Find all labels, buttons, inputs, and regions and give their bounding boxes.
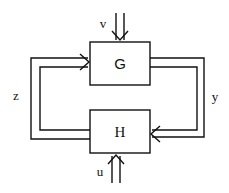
signal-y-label: y	[212, 89, 219, 104]
signal-u-label: u	[97, 164, 104, 179]
y-signal-path	[150, 58, 204, 142]
v-input-arrow	[112, 13, 128, 40]
signal-v-label: v	[100, 16, 107, 31]
z-signal-path	[31, 54, 90, 139]
feedback-diagram: G H v u z y	[0, 0, 229, 193]
block-h-label: H	[115, 124, 126, 140]
block-g-label: G	[114, 55, 126, 72]
signal-z-label: z	[13, 88, 19, 103]
u-input-arrow	[108, 155, 124, 183]
